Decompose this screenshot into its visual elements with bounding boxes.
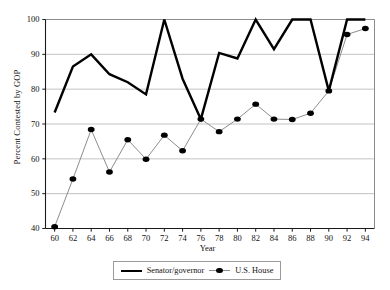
data-point-us-house-68: [124, 137, 131, 142]
chart-legend: Senator/governor U.S. House: [113, 261, 281, 280]
legend-label-senator-governor: Senator/governor: [147, 266, 205, 275]
data-point-us-house-62: [70, 176, 77, 181]
data-point-us-house-80: [234, 116, 241, 121]
chart-figure: Percent Contested by GOP Year 4050607080…: [0, 0, 390, 290]
legend-label-us-house: U.S. House: [235, 266, 273, 275]
data-point-us-house-72: [161, 132, 168, 137]
legend-swatch-us-house: [209, 267, 230, 274]
data-point-us-house-82: [252, 101, 259, 106]
series-line-us-house: [55, 29, 366, 227]
data-point-us-house-86: [289, 117, 296, 122]
data-point-us-house-78: [216, 129, 223, 134]
data-point-us-house-70: [143, 156, 150, 161]
data-point-us-house-84: [271, 116, 278, 121]
data-point-us-house-60: [51, 224, 58, 229]
legend-swatch-senator-governor: [121, 270, 142, 272]
data-point-us-house-74: [179, 148, 186, 153]
series-line-senator-governor: [55, 20, 366, 120]
data-point-us-house-66: [106, 169, 113, 174]
data-point-us-house-88: [307, 111, 314, 116]
plot-area: [0, 0, 390, 290]
data-point-us-house-94: [362, 26, 369, 31]
data-point-us-house-64: [88, 127, 95, 132]
